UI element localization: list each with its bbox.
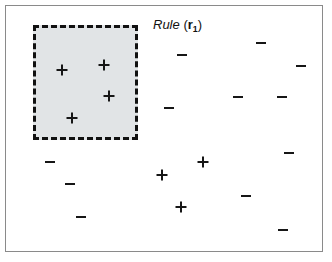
data-point-positive bbox=[176, 202, 187, 213]
data-point-positive bbox=[104, 91, 115, 102]
rule-label: Rule (r1) bbox=[153, 18, 202, 34]
data-point-negative bbox=[241, 191, 252, 202]
data-point-positive bbox=[198, 157, 209, 168]
data-point-positive bbox=[99, 60, 110, 71]
data-point-negative bbox=[45, 157, 56, 168]
data-point-negative bbox=[177, 50, 188, 61]
data-point-positive bbox=[67, 113, 78, 124]
data-point-negative bbox=[65, 179, 76, 190]
data-point-negative bbox=[233, 92, 244, 103]
data-point-negative bbox=[76, 212, 87, 223]
data-point-negative bbox=[278, 225, 289, 236]
plot-frame: Rule (r1) bbox=[5, 5, 323, 252]
data-point-negative bbox=[284, 148, 295, 159]
data-point-positive bbox=[157, 170, 168, 181]
data-point-negative bbox=[296, 61, 307, 72]
data-point-negative bbox=[256, 38, 267, 49]
rule-label-close-paren: ) bbox=[198, 17, 202, 32]
rule-label-word: Rule bbox=[153, 17, 180, 32]
figure-root: Rule (r1) bbox=[0, 0, 332, 262]
rule-region-r1[interactable] bbox=[33, 25, 138, 140]
data-point-positive bbox=[57, 65, 68, 76]
data-point-negative bbox=[164, 103, 175, 114]
data-point-negative bbox=[277, 92, 288, 103]
